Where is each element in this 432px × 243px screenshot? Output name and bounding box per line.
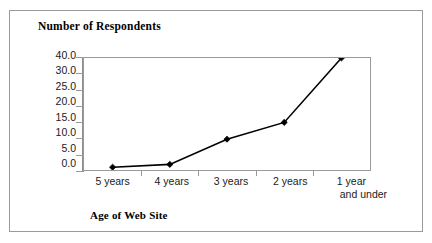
- x-axis-category-label: 5 years: [83, 175, 142, 209]
- chart-figure-frame: Number of Respondents 40.030.025.020.015…: [9, 10, 423, 232]
- y-axis-tick: [76, 90, 83, 91]
- data-point-marker: [224, 136, 230, 142]
- data-point-marker: [110, 164, 116, 170]
- x-axis-category-label-line: 1 year: [337, 175, 366, 187]
- x-axis-title: Age of Web Site: [90, 209, 168, 221]
- y-axis-tick-labels: 40.030.025.020.015.010.05.00.0: [32, 50, 76, 168]
- x-axis-category-label-line: 2 years: [273, 175, 307, 187]
- y-axis-tick: [76, 171, 83, 172]
- x-axis-category-label: 2 years: [261, 175, 320, 209]
- y-axis-tick-label: 20.0: [56, 96, 76, 106]
- x-axis-category-label-line: and under: [334, 188, 393, 201]
- y-axis-tick-label: 30.0: [56, 65, 76, 75]
- x-axis-category-label: 4 years: [142, 175, 201, 209]
- y-axis-tick-label: 25.0: [56, 81, 76, 91]
- x-axis-category-label-line: 3 years: [214, 175, 248, 187]
- y-axis-tick: [76, 106, 83, 107]
- y-axis-tick: [76, 57, 83, 58]
- y-axis-tick-label: 40.0: [56, 50, 76, 60]
- y-axis-tick-label: 5.0: [61, 143, 76, 153]
- series-line: [113, 58, 342, 167]
- y-axis-tick: [76, 155, 83, 156]
- x-axis-category-label-line: 4 years: [155, 175, 189, 187]
- x-axis-category-label: 1 yearand under: [322, 175, 381, 209]
- x-axis-category-labels: 5 years4 years3 years2 years1 yearand un…: [83, 175, 379, 209]
- y-axis-tick-label: 15.0: [56, 112, 76, 122]
- y-axis-tick: [76, 73, 83, 74]
- line-series-svg: [84, 58, 370, 170]
- y-axis-tick: [76, 138, 83, 139]
- x-axis-category-label-line: 5 years: [95, 175, 129, 187]
- y-axis-tick-label: 0.0: [61, 158, 76, 168]
- y-axis-tick: [76, 122, 83, 123]
- series-markers: [110, 58, 345, 170]
- chart-title: Number of Respondents: [38, 20, 161, 32]
- y-axis-tick-marks: [76, 57, 83, 171]
- plot-area: [83, 57, 371, 171]
- data-point-marker: [167, 161, 173, 167]
- x-axis-category-label: 3 years: [201, 175, 260, 209]
- y-axis-tick-label: 10.0: [56, 127, 76, 137]
